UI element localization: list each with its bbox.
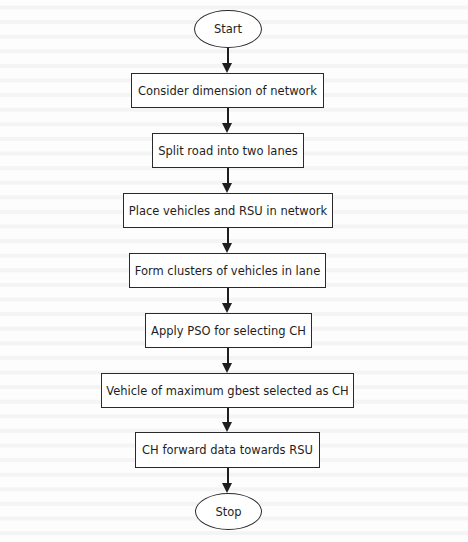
process-step-consider-dimension: Consider dimension of network [131, 73, 324, 108]
stop-terminal: Stop [195, 493, 262, 530]
arrow-connector [227, 228, 229, 244]
arrow-connector [227, 408, 229, 423]
arrowhead-icon [222, 123, 232, 133]
arrow-connector [227, 348, 229, 364]
step-label: Vehicle of maximum gbest selected as CH [106, 384, 349, 398]
process-step-forward-data: CH forward data towards RSU [135, 432, 320, 468]
step-label: CH forward data towards RSU [142, 443, 313, 457]
step-label: Split road into two lanes [158, 144, 298, 158]
step-label: Apply PSO for selecting CH [151, 324, 306, 338]
process-step-place-vehicles-rsu: Place vehicles and RSU in network [123, 193, 333, 228]
arrow-connector [227, 168, 229, 184]
arrow-connector [227, 48, 229, 64]
arrowhead-icon [222, 422, 232, 432]
step-label: Consider dimension of network [138, 84, 317, 98]
step-label: Form clusters of vehicles in lane [135, 264, 320, 278]
arrowhead-icon [222, 363, 232, 373]
arrow-connector [227, 288, 229, 304]
flowchart: Start Consider dimension of network Spli… [0, 0, 468, 542]
arrowhead-icon [222, 183, 232, 193]
process-step-apply-pso: Apply PSO for selecting CH [145, 313, 312, 348]
process-step-select-ch: Vehicle of maximum gbest selected as CH [101, 373, 354, 408]
process-step-form-clusters: Form clusters of vehicles in lane [129, 253, 326, 288]
arrow-connector [227, 468, 229, 484]
arrowhead-icon [222, 483, 232, 493]
arrow-connector [227, 108, 229, 124]
arrowhead-icon [222, 63, 232, 73]
arrowhead-icon [222, 243, 232, 253]
step-label: Place vehicles and RSU in network [129, 204, 327, 218]
stop-label: Stop [215, 505, 241, 519]
process-step-split-road: Split road into two lanes [152, 133, 304, 168]
arrowhead-icon [222, 303, 232, 313]
start-label: Start [214, 22, 242, 36]
start-terminal: Start [194, 10, 262, 48]
